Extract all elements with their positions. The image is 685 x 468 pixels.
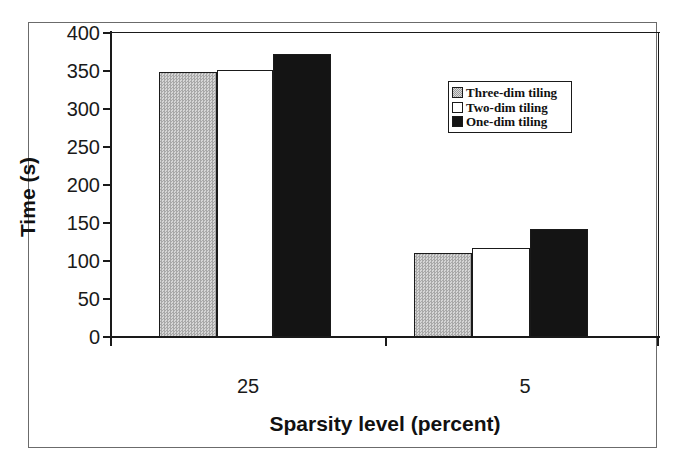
- legend-label-three-dim-tiling: Three-dim tiling: [466, 86, 557, 99]
- bar-25-two-dim-tiling: [217, 70, 273, 337]
- y-tick-label-0: 0: [40, 327, 100, 347]
- x-tick-label-5: 5: [465, 376, 585, 396]
- y-tick-label-50: 50: [40, 289, 100, 309]
- x-tick-label-25: 25: [188, 376, 308, 396]
- y-tick-400: [103, 32, 111, 34]
- chart-legend: Three-dim tiling Two-dim tiling One-dim …: [448, 81, 572, 133]
- y-tick-label-350: 350: [40, 61, 100, 81]
- x-tick-left-edge: [110, 338, 112, 346]
- x-tick-right-edge: [657, 338, 659, 346]
- y-tick-200: [103, 184, 111, 186]
- legend-label-two-dim-tiling: Two-dim tiling: [466, 101, 548, 114]
- legend-swatch-white-icon: [452, 102, 463, 113]
- y-tick-50: [103, 298, 111, 300]
- y-tick-label-150: 150: [40, 213, 100, 233]
- bar-5-two-dim-tiling: [472, 248, 530, 337]
- y-tick-label-100: 100: [40, 251, 100, 271]
- y-tick-label-group: 400 350 300 250 200 150 100 50 0: [34, 0, 100, 468]
- x-axis-title: Sparsity level (percent): [110, 412, 660, 436]
- top-spine-line: [110, 32, 660, 33]
- legend-item-two-dim-tiling: Two-dim tiling: [452, 100, 567, 114]
- y-tick-label-250: 250: [40, 137, 100, 157]
- legend-label-one-dim-tiling: One-dim tiling: [466, 115, 547, 128]
- y-tick-300: [103, 108, 111, 110]
- y-tick-350: [103, 70, 111, 72]
- bar-25-three-dim-tiling: [159, 72, 217, 337]
- y-tick-label-400: 400: [40, 23, 100, 43]
- y-tick-150: [103, 222, 111, 224]
- bar-5-three-dim-tiling: [414, 253, 472, 337]
- y-tick-100: [103, 260, 111, 262]
- legend-item-one-dim-tiling: One-dim tiling: [452, 115, 567, 129]
- y-tick-label-300: 300: [40, 99, 100, 119]
- y-tick-250: [103, 146, 111, 148]
- legend-item-three-dim-tiling: Three-dim tiling: [452, 86, 567, 100]
- legend-swatch-hatch-icon: [452, 87, 463, 98]
- figure-canvas: Time (s) 400 350 300 250 200 150 100 50 …: [0, 0, 685, 468]
- x-tick-midpoint: [385, 338, 387, 346]
- y-tick-label-200: 200: [40, 175, 100, 195]
- bar-25-one-dim-tiling: [273, 54, 331, 337]
- bar-5-one-dim-tiling: [530, 229, 588, 337]
- right-spine-line: [658, 32, 659, 338]
- legend-swatch-black-icon: [452, 116, 463, 127]
